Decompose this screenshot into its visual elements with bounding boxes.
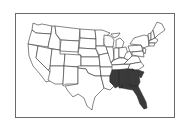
state-colorado <box>64 54 81 67</box>
state-southdakota <box>79 38 96 49</box>
state-northdakota <box>80 29 96 39</box>
state-maine <box>153 22 165 38</box>
states-base <box>28 22 165 110</box>
state-wisconsin <box>104 35 114 47</box>
state-connecticut <box>149 43 155 46</box>
state-kansas <box>81 57 100 66</box>
state-utah <box>50 49 65 66</box>
state-wyoming <box>60 40 79 52</box>
states-highlighted <box>110 69 147 109</box>
us-map <box>0 0 189 127</box>
state-arizona <box>48 66 64 84</box>
state-newmexico <box>63 66 78 86</box>
state-florida <box>122 84 147 109</box>
